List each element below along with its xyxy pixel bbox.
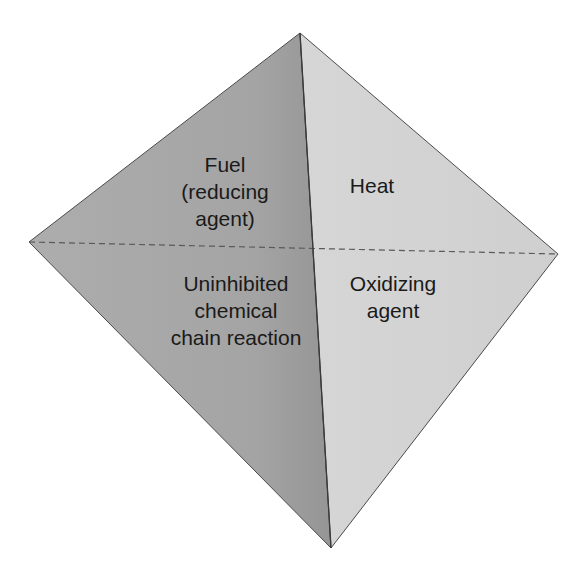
label-chain-reaction-line-1: Uninhibited [171,270,302,297]
label-oxidizing-agent-line-2: agent [350,297,436,324]
label-heat: Heat [350,172,394,199]
label-heat-line-1: Heat [350,172,394,199]
label-fuel: Fuel (reducing agent) [181,151,269,232]
label-oxidizing-agent: Oxidizing agent [350,270,436,324]
label-chain-reaction: Uninhibited chemical chain reaction [171,270,302,351]
label-oxidizing-agent-line-1: Oxidizing [350,270,436,297]
label-chain-reaction-line-2: chemical [171,297,302,324]
label-fuel-line-3: agent) [181,205,269,232]
label-chain-reaction-line-3: chain reaction [171,324,302,351]
label-fuel-line-2: (reducing [181,178,269,205]
label-fuel-line-1: Fuel [181,151,269,178]
